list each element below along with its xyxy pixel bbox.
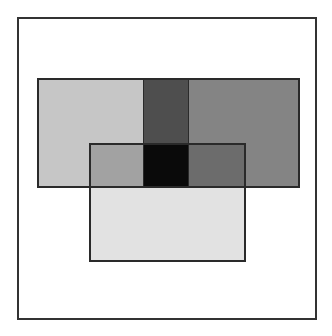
band-right-edge [188, 78, 189, 187]
band-left-edge [143, 78, 144, 187]
lower-rect-outline [89, 143, 246, 262]
